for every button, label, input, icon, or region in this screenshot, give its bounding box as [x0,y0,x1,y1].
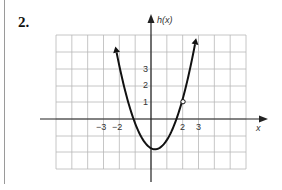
open-circle-point [181,100,185,104]
y-tick-label: 2 [143,80,148,90]
y-axis-arrow-icon [148,14,155,23]
y-tick-label: 1 [143,97,148,107]
axes [40,14,268,182]
function-curve [117,44,195,149]
x-axis-arrow-icon [259,116,268,123]
y-tick-labels: 123 [143,64,148,108]
y-axis-label: h(x) [157,15,173,25]
function-graph: h(x) x −3−223 123 [0,0,282,190]
x-tick-label: 2 [180,122,185,132]
x-tick-label: −3 [96,122,106,132]
x-tick-labels: −3−223 [96,122,201,132]
x-tick-label: 3 [196,122,201,132]
x-tick-label: −2 [112,122,122,132]
curve-arrow-right-icon [192,38,199,45]
y-tick-label: 3 [143,64,148,74]
x-axis-label: x [255,123,261,133]
